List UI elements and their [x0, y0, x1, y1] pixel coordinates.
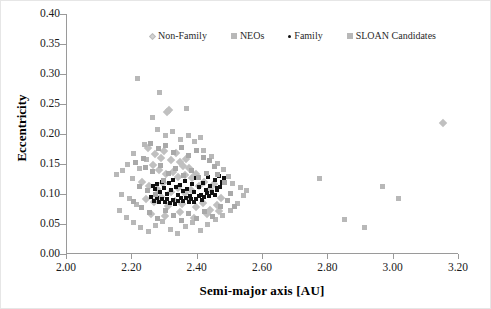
x-axis-tick-label: 2.20	[101, 261, 161, 273]
data-point	[137, 166, 142, 171]
data-point	[147, 210, 152, 215]
data-point	[120, 168, 125, 173]
data-point	[194, 148, 199, 153]
data-point	[213, 193, 217, 197]
x-axis-tick-label: 3.00	[363, 261, 423, 273]
data-point	[201, 155, 206, 160]
y-axis-tick-label: 0.05	[16, 218, 60, 230]
data-point	[146, 229, 151, 234]
data-point	[160, 219, 165, 224]
data-point	[171, 178, 175, 182]
data-point	[179, 218, 184, 223]
plot-canvas	[67, 14, 459, 254]
dot-icon	[288, 35, 291, 38]
data-point	[228, 191, 233, 196]
x-axis-tick	[262, 254, 263, 259]
data-point	[137, 184, 142, 189]
data-point	[439, 119, 447, 127]
data-point	[148, 141, 153, 146]
data-point	[186, 133, 191, 138]
scatter-chart: 0.000.050.100.150.200.250.300.350.40 2.0…	[0, 0, 491, 309]
data-point	[194, 216, 199, 221]
data-point	[192, 190, 196, 194]
y-axis-tick-label: 0.00	[16, 248, 60, 260]
x-axis-tick	[327, 254, 328, 259]
data-point	[205, 222, 210, 227]
data-point	[165, 192, 169, 196]
data-point	[198, 228, 203, 233]
data-point	[170, 129, 175, 134]
data-point	[218, 185, 222, 189]
data-point	[202, 195, 206, 199]
data-point	[141, 156, 146, 161]
data-point	[158, 190, 162, 194]
data-point	[181, 173, 186, 178]
legend-item[interactable]: SLOAN Candidates	[347, 31, 436, 41]
data-point	[186, 153, 191, 158]
data-point	[244, 188, 249, 193]
data-point	[131, 151, 136, 156]
data-point	[163, 208, 168, 213]
x-axis-tick-label: 2.80	[297, 261, 357, 273]
data-point	[157, 90, 162, 95]
data-point	[220, 213, 225, 218]
data-point	[169, 188, 173, 192]
data-point	[221, 167, 226, 172]
data-point	[181, 189, 185, 193]
data-point	[142, 142, 147, 147]
data-point	[135, 76, 140, 81]
data-point	[238, 185, 243, 190]
data-point	[155, 182, 159, 186]
data-point	[218, 204, 223, 209]
x-axis-tick	[66, 254, 67, 259]
data-point	[201, 181, 205, 185]
data-point	[166, 171, 171, 176]
data-point	[317, 176, 322, 181]
data-point	[155, 216, 160, 221]
data-point	[201, 148, 206, 153]
y-axis-title: Eccentricity	[14, 48, 30, 208]
data-point	[145, 188, 150, 193]
data-point	[153, 187, 157, 191]
data-point	[130, 176, 135, 181]
data-point	[158, 163, 163, 168]
data-point	[157, 154, 165, 162]
data-point	[186, 211, 191, 216]
x-axis-tick-label: 3.20	[428, 261, 488, 273]
data-point	[171, 150, 176, 155]
data-point	[225, 198, 230, 203]
data-point	[207, 194, 211, 198]
legend-item[interactable]: Non-Family	[150, 31, 207, 41]
legend-item-label: NEOs	[240, 31, 264, 41]
x-axis-tick-label: 2.00	[36, 261, 96, 273]
data-point	[163, 133, 168, 138]
legend-item[interactable]: NEOs	[231, 31, 264, 41]
data-point	[178, 183, 182, 187]
data-point	[131, 199, 136, 204]
data-point	[175, 208, 183, 216]
data-point	[138, 225, 143, 230]
data-point	[241, 193, 246, 198]
data-point	[125, 162, 130, 167]
data-point	[230, 181, 235, 186]
data-point	[362, 225, 367, 230]
legend-item[interactable]: Family	[288, 31, 322, 41]
x-axis-tick-label: 2.40	[167, 261, 227, 273]
data-point	[155, 127, 160, 132]
data-point	[174, 185, 178, 189]
data-point	[202, 209, 207, 214]
y-axis-tick-label: 0.40	[16, 8, 60, 20]
data-point	[150, 169, 155, 174]
data-point	[153, 223, 158, 228]
data-point	[133, 160, 138, 165]
data-point	[167, 181, 171, 185]
x-axis-tick	[458, 254, 459, 259]
data-point	[210, 214, 215, 219]
data-point	[213, 178, 217, 182]
legend-item-label: SLOAN Candidates	[356, 31, 436, 41]
data-point	[194, 197, 198, 201]
legend-item-label: Family	[294, 31, 322, 41]
data-point	[380, 184, 385, 189]
data-point	[178, 137, 183, 142]
data-point	[117, 208, 122, 213]
